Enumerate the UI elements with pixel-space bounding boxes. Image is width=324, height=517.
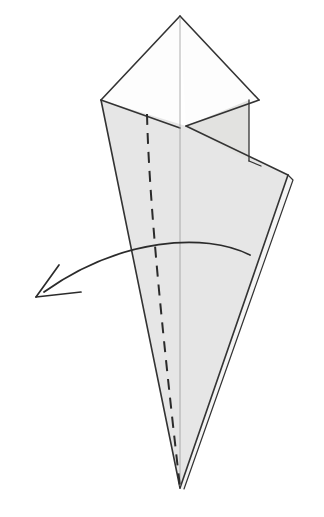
origami-diagram-canvas: Origami step diagram: cone-shaped model … [0,0,324,517]
arrow-head-lower-barb [36,292,81,297]
arrow-head-upper-barb [36,265,59,297]
origami-illustration: Origami step diagram: cone-shaped model … [0,0,324,517]
paper-faces-group [101,16,293,489]
main-cone-body [101,100,288,488]
